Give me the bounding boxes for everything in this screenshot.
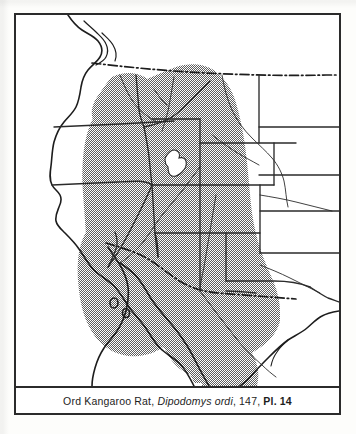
caption-bar: Ord Kangaroo Rat, Dipodomys ordi, 147, P…: [16, 388, 339, 413]
caption-common-name: Ord Kangaroo Rat: [63, 395, 151, 407]
caption-plate-label: Pl. 14: [263, 395, 292, 407]
range-map-svg: [16, 15, 339, 386]
caption-scientific-name: Dipodomys ordi: [157, 395, 232, 407]
figure-caption: Ord Kangaroo Rat, Dipodomys ordi, 147, P…: [63, 395, 292, 407]
figure-page: Ord Kangaroo Rat, Dipodomys ordi, 147, P…: [0, 0, 356, 434]
figure-frame: Ord Kangaroo Rat, Dipodomys ordi, 147, P…: [14, 13, 341, 415]
range-map: [16, 15, 339, 386]
caption-page-number: 147: [239, 395, 257, 407]
